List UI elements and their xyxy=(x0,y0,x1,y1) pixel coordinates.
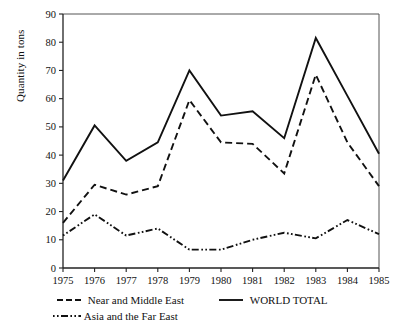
legend-label-asia-far-east: Asia and the Far East xyxy=(84,308,178,324)
legend-label-world-total: WORLD TOTAL xyxy=(250,292,328,308)
legend-entry-world-total: WORLD TOTAL xyxy=(218,291,328,307)
x-tick-group: 1975197619771978197919801981198219831984… xyxy=(53,268,390,286)
x-tick-label: 1977 xyxy=(116,275,137,286)
y-tick-label: 20 xyxy=(46,206,57,217)
y-tick-label: 0 xyxy=(51,263,56,274)
legend-entry-asia-far-east: Asia and the Far East xyxy=(52,307,178,323)
data-series-group xyxy=(63,38,379,250)
x-tick-label: 1984 xyxy=(337,275,359,286)
y-tick-label: 50 xyxy=(46,121,57,132)
legend: Near and Middle East Asia and the Far Ea… xyxy=(0,291,401,326)
y-tick-label: 80 xyxy=(46,37,57,48)
y-tick-label: 90 xyxy=(46,9,57,20)
x-tick-label: 1980 xyxy=(211,275,232,286)
x-tick-label: 1983 xyxy=(305,275,326,286)
x-tick-label: 1978 xyxy=(147,275,168,286)
y-tick-label: 70 xyxy=(46,65,57,76)
x-tick-label: 1985 xyxy=(369,275,390,286)
x-tick-label: 1975 xyxy=(53,275,74,286)
y-tick-label: 30 xyxy=(46,178,57,189)
legend-entry-near-middle-east: Near and Middle East xyxy=(56,291,184,307)
y-tick-label: 40 xyxy=(46,150,57,161)
dashed-line-swatch-icon xyxy=(56,295,82,305)
x-tick-label: 1979 xyxy=(179,275,200,286)
y-tick-label: 10 xyxy=(46,234,57,245)
y-tick-label: 60 xyxy=(46,93,57,104)
series-line-asia-and-the-far-east xyxy=(63,214,379,249)
dash-dot-line-swatch-icon xyxy=(52,311,78,321)
chart-figure: Quantity in tons 0102030405060708090 197… xyxy=(0,0,401,326)
x-tick-label: 1976 xyxy=(84,275,105,286)
plot-canvas: 0102030405060708090 19751976197719781979… xyxy=(0,0,401,326)
x-tick-label: 1982 xyxy=(274,275,295,286)
y-tick-group: 0102030405060708090 xyxy=(46,9,64,274)
x-tick-label: 1981 xyxy=(242,275,263,286)
solid-line-swatch-icon xyxy=(218,295,244,305)
series-line-near-and-middle-east xyxy=(63,75,379,223)
